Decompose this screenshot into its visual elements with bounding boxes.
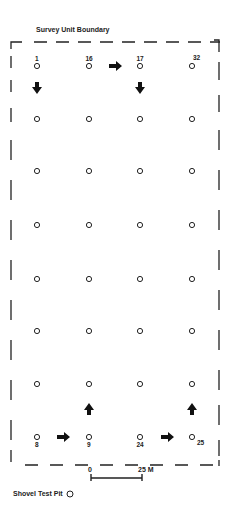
arrow-up-icon (84, 403, 94, 415)
arrow-right-icon (161, 432, 174, 442)
shovel-test-pit-circle-icon (86, 168, 91, 173)
pit-number-label: 25 (197, 439, 205, 446)
shovel-test-pit-circle-icon (86, 381, 91, 386)
direction-arrows (32, 61, 197, 442)
shovel-test-pit-circle-icon (189, 63, 194, 68)
arrow-right-icon (109, 61, 122, 71)
shovel-test-pit-circle-icon (86, 276, 91, 281)
legend-circle-icon (67, 491, 73, 497)
pit-number-label: 24 (137, 441, 145, 448)
shovel-test-pit-circle-icon (137, 116, 142, 121)
shovel-test-pit-circle-icon (137, 63, 142, 68)
shovel-test-pit-circle-icon (189, 168, 194, 173)
shovel-test-pit-circle-icon (86, 63, 91, 68)
scale-bar: 0 25 M (88, 466, 154, 481)
shovel-test-pit-circle-icon (86, 116, 91, 121)
arrow-up-icon (187, 403, 197, 415)
shovel-test-pit-circle-icon (34, 434, 39, 439)
shovel-test-pit-circle-icon (189, 381, 194, 386)
shovel-test-pit-circle-icon (34, 381, 39, 386)
pit-number-label: 1 (35, 55, 39, 62)
shovel-test-pit-circle-icon (137, 276, 142, 281)
scale-end-label: 25 M (138, 466, 154, 473)
scale-start-label: 0 (88, 466, 92, 473)
shovel-test-pit-circle-icon (137, 328, 142, 333)
shovel-test-pit-circle-icon (189, 276, 194, 281)
shovel-test-pit-circle-icon (86, 222, 91, 227)
survey-boundary (11, 40, 220, 466)
pit-number-label: 17 (137, 55, 145, 62)
shovel-test-pit-circle-icon (34, 222, 39, 227)
survey-grid-diagram: Survey Unit Boundary 1161732892425 0 25 … (0, 0, 233, 506)
shovel-test-pits: 1161732892425 (34, 54, 204, 448)
pit-number-label: 9 (87, 441, 91, 448)
shovel-test-pit-circle-icon (34, 168, 39, 173)
shovel-test-pit-circle-icon (137, 222, 142, 227)
shovel-test-pit-circle-icon (86, 328, 91, 333)
shovel-test-pit-circle-icon (189, 434, 194, 439)
shovel-test-pit-circle-icon (34, 328, 39, 333)
shovel-test-pit-circle-icon (137, 381, 142, 386)
title-label: Survey Unit Boundary (36, 26, 110, 34)
shovel-test-pit-circle-icon (137, 434, 142, 439)
pit-number-label: 8 (35, 441, 39, 448)
shovel-test-pit-circle-icon (34, 276, 39, 281)
shovel-test-pit-circle-icon (137, 168, 142, 173)
legend-label: Shovel Test Pit (13, 490, 63, 497)
legend: Shovel Test Pit (13, 490, 73, 497)
shovel-test-pit-circle-icon (86, 434, 91, 439)
shovel-test-pit-circle-icon (189, 116, 194, 121)
shovel-test-pit-circle-icon (189, 328, 194, 333)
shovel-test-pit-circle-icon (189, 222, 194, 227)
arrow-down-icon (135, 82, 145, 94)
arrow-right-icon (57, 432, 70, 442)
arrow-down-icon (32, 82, 42, 94)
shovel-test-pit-circle-icon (34, 116, 39, 121)
shovel-test-pit-circle-icon (34, 63, 39, 68)
pit-number-label: 16 (86, 55, 94, 62)
pit-number-label: 32 (193, 54, 201, 61)
